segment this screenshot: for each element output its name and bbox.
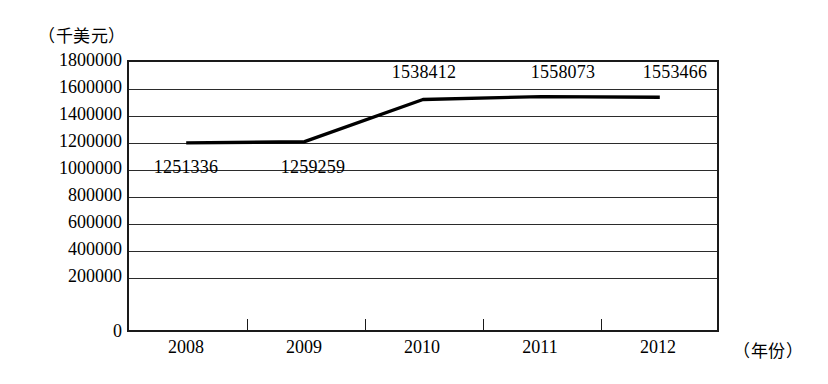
gridline-600000 (129, 224, 717, 225)
y-tick-label-1000000: 1000000 (2, 159, 122, 177)
y-tick-label-600000: 600000 (2, 213, 122, 231)
x-tick-mark-3 (483, 319, 484, 330)
x-tick-label-2009: 2009 (286, 337, 322, 358)
x-axis-tick-labels: 2008 2009 2010 2011 2012 (127, 337, 719, 363)
data-label-2009: 1259259 (281, 157, 345, 178)
x-tick-mark-4 (601, 319, 602, 330)
y-tick-label-1800000: 1800000 (2, 51, 122, 69)
y-tick-label-400000: 400000 (2, 240, 122, 258)
y-axis-tick-labels: 1800000 1600000 1400000 1200000 1000000 … (0, 60, 122, 332)
gridline-1400000 (129, 116, 717, 117)
gridline-400000 (129, 251, 717, 252)
plot-area (127, 60, 719, 332)
data-label-2012: 1553466 (643, 62, 707, 83)
y-axis-unit-caption: （千美元） (38, 22, 126, 47)
y-tick-label-200000: 200000 (2, 267, 122, 285)
y-tick-label-1600000: 1600000 (2, 78, 122, 96)
gridline-1200000 (129, 143, 717, 144)
x-tick-label-2008: 2008 (168, 337, 204, 358)
x-tick-label-2012: 2012 (640, 337, 676, 358)
data-label-2011: 1558073 (531, 62, 595, 83)
y-tick-label-1400000: 1400000 (2, 105, 122, 123)
gridline-1600000 (129, 89, 717, 90)
gridline-200000 (129, 278, 717, 279)
x-tick-mark-1 (247, 319, 248, 330)
x-tick-label-2011: 2011 (522, 337, 557, 358)
x-axis-caption: （年份） (733, 337, 803, 362)
y-tick-label-1200000: 1200000 (2, 132, 122, 150)
data-label-2008: 1251336 (154, 157, 218, 178)
y-tick-label-800000: 800000 (2, 186, 122, 204)
x-tick-label-2010: 2010 (404, 337, 440, 358)
gridline-800000 (129, 197, 717, 198)
line-chart: （千美元） 1800000 1600000 1400000 1200000 10… (0, 0, 828, 384)
x-tick-mark-2 (365, 319, 366, 330)
data-label-2010: 1538412 (392, 62, 456, 83)
y-tick-label-0: 0 (2, 322, 122, 340)
